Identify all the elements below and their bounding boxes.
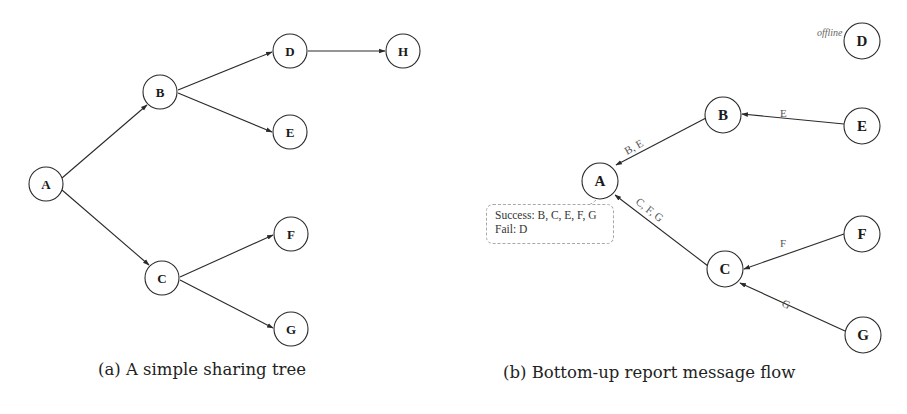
node-b-E: E: [844, 108, 880, 144]
node-label: B: [718, 107, 728, 123]
offline-annotation: offline: [817, 27, 843, 38]
callout-fail-line: Fail: D: [495, 222, 613, 236]
node-b-C: C: [707, 251, 743, 287]
edge-label-E: E: [780, 107, 787, 119]
edge-a-B-E: [178, 93, 272, 132]
node-b-D: D: [844, 23, 880, 59]
edge-label-B-E: B, E: [622, 137, 645, 157]
edge-label-G: G: [780, 297, 792, 311]
figure-b-nodes: A B C D E F G: [582, 23, 881, 353]
edge-b-E-B: [742, 114, 844, 124]
figure-a-nodes: A B C D E F G H: [29, 34, 420, 346]
edge-label-F: F: [780, 237, 786, 249]
figure-canvas: A B C D E F G H E B, E F G C, F, G A B C…: [0, 0, 907, 414]
figure-a-edges: [62, 51, 385, 328]
node-label: E: [286, 125, 295, 140]
node-a-C: C: [145, 261, 179, 295]
report-callout: Success: B, C, E, F, G Fail: D: [486, 204, 614, 244]
node-label: B: [156, 85, 165, 100]
figure-b-edge-labels: E B, E F G C, F, G: [622, 107, 792, 311]
edge-a-C-F: [180, 235, 273, 277]
node-a-F: F: [274, 217, 308, 251]
node-label: G: [286, 322, 296, 337]
node-a-G: G: [274, 312, 308, 346]
node-a-A: A: [29, 167, 63, 201]
node-label: F: [857, 226, 866, 242]
node-b-F: F: [844, 216, 880, 252]
node-label: E: [857, 118, 867, 134]
callout-success-line: Success: B, C, E, F, G: [495, 208, 613, 222]
node-b-B: B: [705, 97, 741, 133]
figure-b-edges: [615, 114, 845, 331]
node-label: A: [595, 173, 606, 189]
edge-label-C-F-G: C, F, G: [634, 195, 666, 224]
node-a-E: E: [273, 115, 307, 149]
node-a-D: D: [273, 34, 307, 68]
edge-a-A-B: [62, 105, 147, 178]
node-label: C: [157, 271, 166, 286]
node-label: G: [857, 327, 869, 343]
node-a-H: H: [386, 34, 420, 68]
node-label: F: [287, 227, 295, 242]
edge-b-G-C: [740, 283, 845, 331]
node-label: C: [720, 261, 731, 277]
caption-a: (a) A simple sharing tree: [98, 360, 306, 379]
node-b-A: A: [582, 163, 618, 199]
node-label: D: [857, 33, 868, 49]
node-label: D: [285, 44, 294, 59]
edge-a-C-G: [180, 280, 273, 328]
node-a-B: B: [143, 75, 177, 109]
edge-a-B-D: [178, 52, 272, 90]
caption-b: (b) Bottom-up report message flow: [503, 363, 795, 382]
node-label: A: [41, 177, 51, 192]
edge-b-C-A: [615, 195, 708, 266]
edge-a-A-C: [62, 190, 149, 265]
edge-b-F-C: [744, 234, 844, 269]
node-label: H: [398, 44, 408, 59]
node-b-G: G: [845, 317, 881, 353]
